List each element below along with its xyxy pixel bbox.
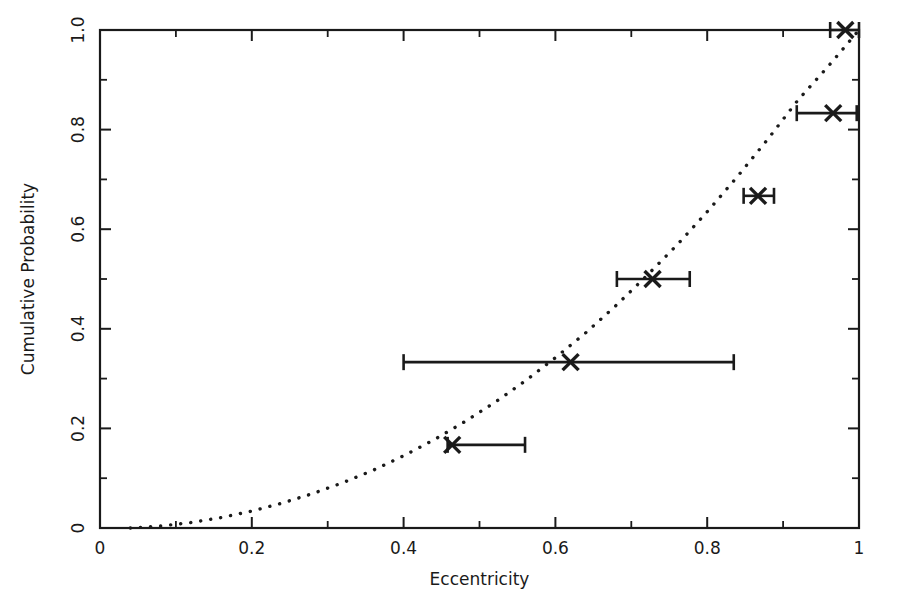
data-point <box>444 437 525 453</box>
y-tick-label: 1.0 <box>68 16 88 43</box>
y-tick-label: 0.6 <box>68 216 88 243</box>
data-point <box>404 354 734 370</box>
eccentricity-cumulative-probability-chart: 00.20.40.60.81 00.20.40.60.81.0 Eccentri… <box>0 0 897 608</box>
plot-frame <box>100 30 859 528</box>
x-axis-ticks <box>100 30 859 528</box>
data-point <box>797 105 857 121</box>
x-tick-label: 0 <box>95 538 106 558</box>
x-tick-label: 0.4 <box>390 538 417 558</box>
x-tick-label: 0.6 <box>542 538 569 558</box>
data-point <box>744 188 774 204</box>
y-tick-label: 0 <box>68 523 88 534</box>
x-axis-title: Eccentricity <box>430 569 530 589</box>
y-tick-label: 0.8 <box>68 116 88 143</box>
y-axis-ticks <box>100 30 859 528</box>
data-point <box>830 22 859 38</box>
model-cumulative-curve <box>130 30 859 528</box>
data-point <box>617 271 690 287</box>
model-curve-series <box>130 30 859 528</box>
y-tick-label: 0.2 <box>68 415 88 442</box>
x-tick-label: 0.8 <box>694 538 721 558</box>
y-tick-label: 0.4 <box>68 315 88 342</box>
observed-data-points <box>404 22 859 453</box>
y-axis-title: Cumulative Probability <box>18 183 38 375</box>
y-axis-tick-labels: 00.20.40.60.81.0 <box>68 16 88 533</box>
x-axis-tick-labels: 00.20.40.60.81 <box>95 538 865 558</box>
x-tick-label: 0.2 <box>238 538 265 558</box>
chart-canvas: 00.20.40.60.81 00.20.40.60.81.0 Eccentri… <box>0 0 897 608</box>
x-tick-label: 1 <box>854 538 865 558</box>
